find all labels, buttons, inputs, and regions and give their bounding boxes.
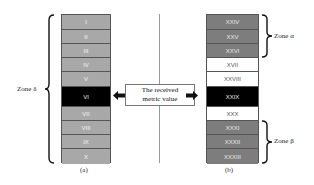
column-a: I II III IV V VI VII VIII IX X bbox=[61, 14, 111, 163]
cell-a-1: I bbox=[62, 15, 110, 30]
zone-alpha-brace bbox=[261, 14, 273, 58]
cell-a-6-highlighted: VI bbox=[62, 87, 110, 107]
cell-b-8: XXXI bbox=[207, 121, 258, 135]
arrow-right-icon bbox=[186, 91, 198, 100]
cell-a-5: V bbox=[62, 72, 110, 87]
column-b: XXIV XXV XXVI XVII XXVIII XXIX XXX XXXI … bbox=[206, 14, 259, 163]
cell-b-2: XXV bbox=[207, 30, 258, 44]
cell-a-3: III bbox=[62, 44, 110, 58]
cell-b-10: XXXIII bbox=[207, 149, 258, 164]
zone-beta-brace bbox=[261, 120, 273, 164]
cell-a-10: X bbox=[62, 149, 110, 164]
cell-a-4: IV bbox=[62, 58, 110, 72]
cell-a-8: VIII bbox=[62, 121, 110, 135]
cell-b-6-highlighted: XXIX bbox=[207, 87, 258, 107]
cell-a-7: VII bbox=[62, 107, 110, 121]
caption-b: (b) bbox=[225, 166, 233, 174]
cell-b-5: XXVIII bbox=[207, 72, 258, 87]
cell-b-4: XVII bbox=[207, 58, 258, 72]
zone-beta-label: Zone β bbox=[274, 137, 294, 145]
callout-line-1: The received bbox=[126, 86, 194, 95]
cell-b-1: XXIV bbox=[207, 15, 258, 30]
cell-a-9: IX bbox=[62, 135, 110, 149]
cell-b-9: XXXII bbox=[207, 135, 258, 149]
zone-delta-brace bbox=[44, 14, 56, 164]
arrow-left-icon bbox=[113, 91, 125, 100]
caption-a: (a) bbox=[80, 166, 88, 174]
cell-b-7: XXX bbox=[207, 107, 258, 121]
cell-b-3: XXVI bbox=[207, 44, 258, 58]
zone-delta-label: Zone δ bbox=[17, 85, 36, 93]
cell-a-2: II bbox=[62, 30, 110, 44]
received-metric-callout: The received metric value bbox=[125, 84, 195, 106]
zone-alpha-label: Zone α bbox=[274, 32, 294, 40]
callout-line-2: metric value bbox=[126, 95, 194, 104]
